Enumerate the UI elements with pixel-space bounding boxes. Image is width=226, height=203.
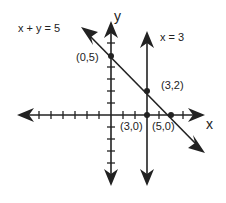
point-label-3-2: (3,2) xyxy=(161,80,184,91)
point-3-0 xyxy=(144,112,150,118)
point-label-0-5: (0,5) xyxy=(76,52,99,63)
point-3-2 xyxy=(144,88,150,94)
point-5-0 xyxy=(168,112,174,118)
point-label-5-0: (5,0) xyxy=(152,121,175,132)
equation-label-x-equals-3: x = 3 xyxy=(160,32,184,43)
point-label-3-0: (3,0) xyxy=(120,121,143,132)
y-axis-label: y xyxy=(114,9,121,23)
equation-label-x-plus-y: x + y = 5 xyxy=(18,23,60,34)
point-0-5 xyxy=(108,53,114,59)
x-axis-label: x xyxy=(206,117,213,131)
